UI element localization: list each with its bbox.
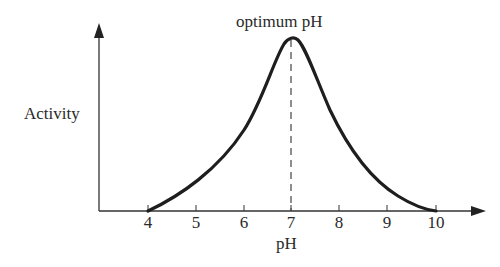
x-ticks	[148, 205, 436, 211]
y-axis-arrow-icon	[94, 23, 104, 38]
x-tick-label: 5	[192, 213, 201, 233]
x-tick-label: 7	[287, 213, 296, 233]
y-axis-label: Activity	[24, 104, 80, 124]
x-axis-label: pH	[276, 234, 297, 254]
activity-curve	[148, 38, 436, 211]
x-axis-arrow-icon	[471, 206, 486, 216]
optimum-ph-label: optimum pH	[236, 12, 322, 32]
x-tick-label: 4	[144, 213, 153, 233]
x-tick-label: 6	[240, 213, 249, 233]
x-tick-label: 8	[335, 213, 344, 233]
activity-vs-ph-chart	[0, 0, 500, 267]
x-tick-label: 9	[383, 213, 392, 233]
x-tick-label: 10	[428, 213, 445, 233]
